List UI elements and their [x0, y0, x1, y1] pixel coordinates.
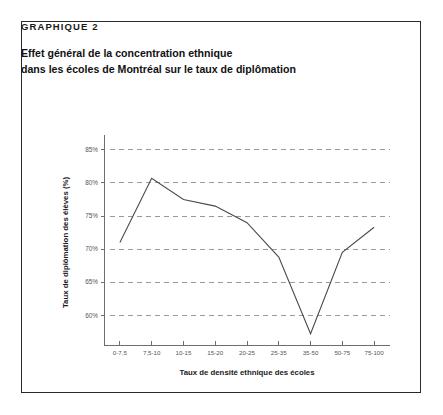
x-tick-label: 7,5-10 — [143, 349, 161, 356]
y-axis-title: Taux de diplômation des élèves (%) — [61, 177, 70, 309]
x-tick-label: 25-35 — [271, 349, 287, 356]
y-tick-label: 75% — [85, 212, 98, 219]
gridline-group — [110, 150, 390, 315]
data-series-line — [120, 178, 374, 333]
chart-plot-area: 85%80%75%70%65%60% 0-7,57,5-1010-1515-20… — [0, 0, 400, 372]
line-chart: 85%80%75%70%65%60% 0-7,57,5-1010-1515-20… — [0, 0, 443, 415]
y-tick-label: 65% — [85, 278, 98, 285]
x-tick-group: 0-7,57,5-1010-1515-2020-2525-3535-5050-7… — [113, 341, 384, 356]
y-tick-label: 70% — [85, 245, 98, 252]
x-tick-label: 75-100 — [364, 349, 384, 356]
x-tick-label: 0-7,5 — [113, 349, 128, 356]
x-tick-label: 10-15 — [176, 349, 192, 356]
x-tick-label: 15-20 — [207, 349, 223, 356]
x-tick-label: 35-50 — [303, 349, 319, 356]
axis-group — [104, 135, 390, 345]
x-axis-title: Taux de densité ethnique des écoles — [179, 368, 315, 377]
x-tick-label: 50-75 — [334, 349, 350, 356]
y-tick-label: 85% — [85, 146, 98, 153]
x-tick-label: 20-25 — [239, 349, 255, 356]
y-tick-label: 60% — [85, 312, 98, 319]
y-tick-label: 80% — [85, 179, 98, 186]
y-tick-group: 85%80%75%70%65%60% — [85, 146, 104, 318]
